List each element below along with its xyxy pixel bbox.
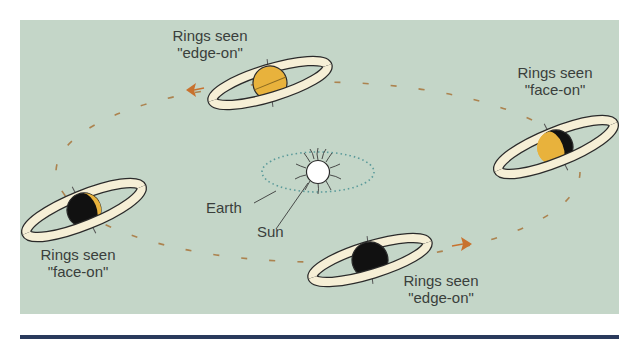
label-bottom-left-line2: "face-on" xyxy=(30,263,126,280)
label-bottom-right-line1: Rings seen xyxy=(393,272,489,289)
label-bottom-right: Rings seen "edge-on" xyxy=(393,272,489,306)
label-earth: Earth xyxy=(206,199,242,216)
label-top-right: Rings seen "face-on" xyxy=(507,64,603,98)
label-sun: Sun xyxy=(257,223,284,240)
orbit-arrow-left-icon xyxy=(186,83,204,97)
label-bottom-left-line1: Rings seen xyxy=(30,246,126,263)
earth-pointer-line xyxy=(254,191,276,203)
saturn-orbit-diagram xyxy=(0,0,638,339)
label-bottom-left: Rings seen "face-on" xyxy=(30,246,126,280)
bottom-divider xyxy=(20,335,619,339)
label-top-left-line2: "edge-on" xyxy=(162,44,258,61)
label-bottom-right-line2: "edge-on" xyxy=(393,289,489,306)
label-top-right-line2: "face-on" xyxy=(507,81,603,98)
label-top-right-line1: Rings seen xyxy=(507,64,603,81)
orbit-arrow-right-icon xyxy=(452,237,472,251)
label-top-left: Rings seen "edge-on" xyxy=(162,27,258,61)
sun-icon xyxy=(295,148,341,194)
label-top-left-line1: Rings seen xyxy=(162,27,258,44)
saturn-left-icon xyxy=(17,163,151,257)
saturn-right-icon xyxy=(489,100,623,194)
